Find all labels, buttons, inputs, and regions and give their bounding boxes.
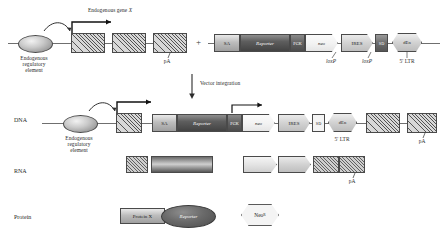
protein-neo-label: NeoR bbox=[242, 205, 278, 225]
figure-canvas: DNA RNA Protein Endogenous regulatory el… bbox=[0, 0, 446, 242]
protein-neo-hexagon: NeoR bbox=[241, 204, 279, 226]
protein-reporter-oval: Reporter bbox=[161, 205, 216, 228]
protein-fusion-box: Protein X bbox=[120, 208, 165, 224]
protein-reporter-oval-label: Reporter bbox=[162, 206, 215, 227]
rna-polyA-tick bbox=[0, 0, 446, 242]
protein-fusion-box-label: Protein X bbox=[121, 209, 164, 223]
protein-neo-superscript: R bbox=[263, 213, 265, 217]
protein-neo-text: Neo bbox=[254, 212, 263, 218]
rna-polyA-label: pA bbox=[349, 178, 356, 184]
